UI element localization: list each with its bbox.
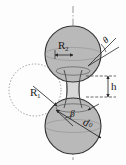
r1-label-subscript: 1	[37, 92, 41, 100]
beta-label: β	[69, 109, 75, 119]
h-label: h	[111, 80, 117, 92]
liquid-bridge-figure: R 2 R 1 θ h β d 0	[0, 0, 126, 165]
r2-label-subscript: 2	[65, 45, 69, 53]
theta-label: θ	[101, 35, 111, 46]
liquid-bridge-diagram: R 2 R 1 θ h β d 0	[0, 0, 126, 165]
upper-sphere	[45, 26, 101, 82]
